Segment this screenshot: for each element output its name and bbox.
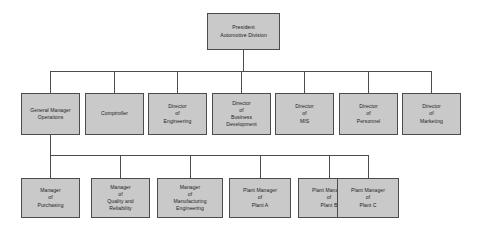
node-marketing-line-2: of	[404, 110, 459, 117]
connector-riser-purchasing	[50, 155, 51, 178]
node-director-of-marketing[interactable]: Director of Marketing	[402, 93, 461, 135]
node-purchasing-line-3: Purchasing	[23, 202, 78, 209]
node-quality-line-4: Reliability	[93, 205, 148, 212]
node-personnel-line-3: Personnel	[341, 118, 396, 125]
node-mis-line-2: of	[277, 110, 332, 117]
connector-riser-business-development	[241, 71, 242, 93]
node-marketing-line-3: Marketing	[404, 118, 459, 125]
connector-gm-operations-drop	[50, 135, 51, 155]
connector-riser-mis	[304, 71, 305, 93]
node-gm-operations-line-2: Operations	[23, 114, 78, 121]
node-comptroller-line-1: Comptroller	[87, 110, 142, 117]
node-engineering-line-1: Director	[150, 103, 205, 110]
node-plant-c-line-2: of	[339, 194, 397, 201]
connector-riser-quality	[120, 155, 121, 178]
node-manager-of-purchasing[interactable]: Manager of Purchasing	[21, 178, 80, 218]
node-personnel-line-1: Director	[341, 103, 396, 110]
connector-riser-plant-c	[368, 155, 369, 178]
node-plant-a-line-2: of	[231, 194, 289, 201]
node-manufacturing-line-2: of	[159, 191, 221, 198]
node-general-manager-operations[interactable]: General Manager Operations	[21, 93, 80, 135]
connector-riser-manufacturing	[190, 155, 191, 178]
node-quality-line-2: of	[93, 191, 148, 198]
connector-riser-marketing	[431, 71, 432, 93]
node-director-of-mis[interactable]: Director of MIS	[275, 93, 334, 135]
node-director-of-business-development[interactable]: Director of Business Development	[212, 93, 271, 135]
node-business-development-line-1: Director	[214, 99, 269, 106]
node-director-of-engineering[interactable]: Director of Engineering	[148, 93, 207, 135]
connector-riser-plant-b	[329, 155, 330, 178]
node-mis-line-1: Director	[277, 103, 332, 110]
connector-riser-engineering	[177, 71, 178, 93]
node-director-of-personnel[interactable]: Director of Personnel	[339, 93, 398, 135]
node-business-development-line-2: of	[214, 107, 269, 114]
node-purchasing-line-1: Manager	[23, 187, 78, 194]
connector-riser-comptroller	[114, 71, 115, 93]
node-personnel-line-2: of	[341, 110, 396, 117]
node-manager-of-quality-and-reliability[interactable]: Manager of Quality and Reliability	[91, 178, 150, 218]
connector-riser-plant-a	[260, 155, 261, 178]
node-manager-of-manufacturing-engineering[interactable]: Manager of Manufacturing Engineering	[157, 178, 223, 218]
node-plant-c-line-1: Plant Manager	[339, 187, 397, 194]
node-plant-c-line-3: Plant C	[339, 202, 397, 209]
node-manufacturing-line-3: Manufacturing	[159, 198, 221, 205]
node-engineering-line-2: of	[150, 110, 205, 117]
connector-president-drop	[243, 50, 244, 71]
node-engineering-line-3: Engineering	[150, 118, 205, 125]
node-purchasing-line-2: of	[23, 194, 78, 201]
node-quality-line-3: Quality and	[93, 198, 148, 205]
node-president[interactable]: President Automotive Division	[207, 13, 280, 50]
node-business-development-line-3: Business	[214, 114, 269, 121]
connector-level2-bus	[50, 155, 369, 156]
node-president-line-1: President	[209, 24, 278, 31]
node-plant-manager-c[interactable]: Plant Manager of Plant C	[337, 178, 399, 218]
node-marketing-line-1: Director	[404, 103, 459, 110]
node-quality-line-1: Manager	[93, 183, 148, 190]
node-comptroller[interactable]: Comptroller	[85, 93, 144, 135]
node-business-development-line-4: Development	[214, 121, 269, 128]
node-manufacturing-line-4: Engineering	[159, 205, 221, 212]
node-president-line-2: Automotive Division	[209, 32, 278, 39]
node-manufacturing-line-1: Manager	[159, 183, 221, 190]
connector-riser-personnel	[368, 71, 369, 93]
node-plant-manager-a[interactable]: Plant Manager of Plant A	[229, 178, 291, 218]
org-chart-canvas: President Automotive Division General Ma…	[0, 0, 480, 231]
node-plant-a-line-1: Plant Manager	[231, 187, 289, 194]
connector-riser-gm-operations	[50, 71, 51, 93]
node-plant-a-line-3: Plant A	[231, 202, 289, 209]
node-gm-operations-line-1: General Manager	[23, 107, 78, 114]
node-mis-line-3: MIS	[277, 118, 332, 125]
